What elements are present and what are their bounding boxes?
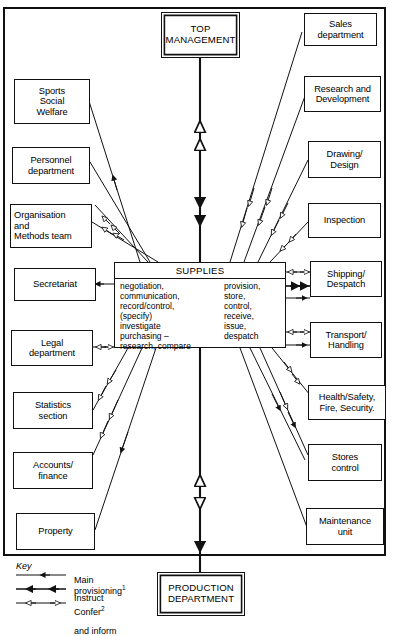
box-transport-handling-label: Transport/ Handling	[325, 330, 366, 351]
box-supplies[interactable]: SUPPLIES negotiation, communication, rec…	[114, 262, 286, 348]
box-supplies-column-left: negotiation, communication, record/contr…	[115, 281, 220, 348]
box-top-management[interactable]: TOP MANAGEMENT	[161, 12, 240, 58]
box-health-safety-fire-security-label: Health/Safety, Fire, Security.	[319, 392, 375, 413]
box-supplies-column-right: provision, store, control, receive, issu…	[220, 281, 285, 348]
box-statistics-section[interactable]: Statistics section	[13, 392, 93, 429]
legend-superscript-1: 1	[122, 584, 126, 591]
legend-row-confer: Confer2 and inform	[74, 596, 117, 636]
box-supplies-title: SUPPLIES	[115, 263, 285, 279]
box-personnel-department-label: Personnel department	[28, 155, 74, 176]
box-personnel-department[interactable]: Personnel department	[12, 147, 90, 184]
box-drawing-design[interactable]: Drawing/ Design	[308, 141, 381, 178]
legend-superscript-2: 2	[101, 605, 105, 612]
legend-key: Key Main provisioning1 Instruct	[14, 561, 164, 619]
box-organisation-methods-team[interactable]: Organisation and Methods team	[10, 204, 92, 248]
box-inspection[interactable]: Inspection	[308, 203, 381, 238]
box-statistics-section-label: Statistics section	[35, 400, 71, 421]
box-secretariat[interactable]: Secretariat	[14, 268, 96, 301]
box-legal-department[interactable]: Legal department	[11, 330, 93, 366]
box-property-label: Property	[38, 526, 72, 537]
box-maintenance-unit[interactable]: Maintenance unit	[306, 508, 384, 545]
box-legal-department-label: Legal department	[29, 338, 75, 359]
box-drawing-design-label: Drawing/ Design	[327, 149, 363, 170]
box-secretariat-label: Secretariat	[33, 279, 77, 290]
box-inspection-label: Inspection	[324, 215, 365, 226]
box-supplies-body: negotiation, communication, record/contr…	[115, 279, 285, 348]
box-shipping-despatch[interactable]: Shipping/ Despatch	[310, 261, 382, 297]
box-organisation-methods-team-label: Organisation and Methods team	[14, 210, 72, 242]
legend-label-confer: Confer	[74, 607, 101, 617]
box-accounts-finance-label: Accounts/ finance	[33, 460, 73, 481]
box-stores-control-label: Stores control	[331, 452, 358, 473]
box-sports-social-welfare-label: Sports Social Welfare	[36, 86, 67, 118]
box-sales-department-label: Sales department	[317, 19, 363, 40]
box-top-management-label: TOP MANAGEMENT	[166, 24, 236, 46]
box-sales-department[interactable]: Sales department	[304, 13, 377, 46]
legend-label-and-inform: and inform	[74, 626, 117, 636]
box-accounts-finance[interactable]: Accounts/ finance	[13, 452, 93, 489]
box-production-department-label: PRODUCTION DEPARTMENT	[168, 583, 234, 605]
box-property[interactable]: Property	[16, 513, 95, 550]
box-research-development[interactable]: Research and Development	[304, 76, 381, 112]
box-sports-social-welfare[interactable]: Sports Social Welfare	[14, 79, 90, 124]
box-research-development-label: Research and Development	[314, 84, 371, 105]
box-stores-control[interactable]: Stores control	[308, 444, 382, 481]
box-health-safety-fire-security[interactable]: Health/Safety, Fire, Security.	[308, 385, 386, 420]
box-maintenance-unit-label: Maintenance unit	[319, 516, 371, 537]
box-shipping-despatch-label: Shipping/ Despatch	[327, 269, 365, 290]
box-transport-handling[interactable]: Transport/ Handling	[310, 322, 382, 358]
box-production-department[interactable]: PRODUCTION DEPARTMENT	[157, 572, 245, 616]
